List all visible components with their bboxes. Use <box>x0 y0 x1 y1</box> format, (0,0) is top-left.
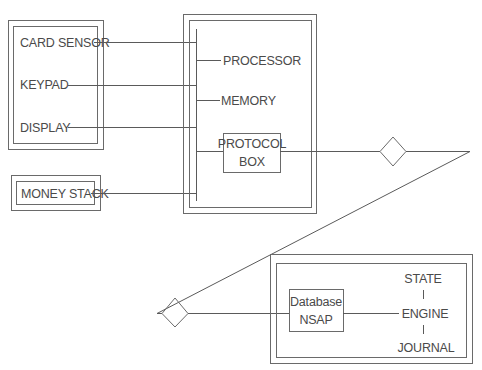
atm-network-diagram: CARD SENSOR KEYPAD DISPLAY MONEY STACK P… <box>0 0 482 370</box>
engine-label: ENGINE <box>402 307 449 321</box>
upper-diamond-icon <box>380 137 406 166</box>
nsap-label: NSAP <box>299 313 332 327</box>
lower-diamond-icon <box>162 298 188 327</box>
processor-label: PROCESSOR <box>223 54 301 68</box>
keypad-label: KEYPAD <box>20 78 69 92</box>
display-label: DISPLAY <box>20 121 71 135</box>
protocol-box-line1: PROTOCOL <box>218 137 287 151</box>
terminal-connections <box>68 43 196 194</box>
protocol-box-line2: BOX <box>239 155 266 169</box>
journal-label: JOURNAL <box>398 341 455 355</box>
database-label: Database <box>290 295 342 309</box>
controller-inner-border <box>190 21 312 208</box>
memory-label: MEMORY <box>221 94 277 108</box>
controller-outer-border <box>184 15 317 214</box>
host-box: Database NSAP STATE ENGINE JOURNAL <box>271 255 473 364</box>
state-label: STATE <box>404 272 441 286</box>
controller-box: PROCESSOR MEMORY PROTOCOL BOX <box>184 15 317 214</box>
